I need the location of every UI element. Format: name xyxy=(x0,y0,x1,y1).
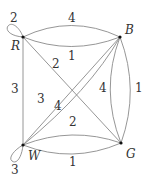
edge-w-loop xyxy=(11,145,23,162)
vertex-b xyxy=(118,35,121,38)
weight-r-loop: 2 xyxy=(10,11,18,25)
weight-b-w-4: 4 xyxy=(54,99,62,113)
edge-r-loop xyxy=(7,24,23,37)
edge-b-g-4 xyxy=(110,37,121,143)
edge-r-b-1 xyxy=(23,37,120,47)
weight-b-g-4: 4 xyxy=(99,81,107,95)
edge-r-b-4 xyxy=(23,26,120,38)
weight-r-b-1: 1 xyxy=(68,49,76,63)
vertex-r xyxy=(21,35,24,38)
vertex-w xyxy=(21,143,24,146)
edge-w-g-2 xyxy=(23,135,121,145)
weight-r-w-3: 3 xyxy=(11,82,19,96)
vertex-label-r: R xyxy=(10,39,20,53)
vertex-label-g: G xyxy=(126,147,136,161)
vertex-label-b: B xyxy=(124,23,134,37)
weight-b-w-3: 3 xyxy=(37,92,45,106)
weight-w-g-2: 2 xyxy=(69,115,77,129)
edge-b-g-1 xyxy=(120,37,130,143)
weighted-graph: R B W G 2 4 1 3 2 3 4 4 1 2 1 3 xyxy=(0,0,146,177)
vertex-label-w: W xyxy=(28,149,42,163)
weight-b-g-1: 1 xyxy=(135,81,143,95)
weight-r-b-4: 4 xyxy=(68,11,76,25)
weight-w-loop: 3 xyxy=(11,163,19,177)
vertex-g xyxy=(119,141,122,144)
weight-w-g-1: 1 xyxy=(69,155,77,169)
weight-r-g-2: 2 xyxy=(52,57,60,71)
